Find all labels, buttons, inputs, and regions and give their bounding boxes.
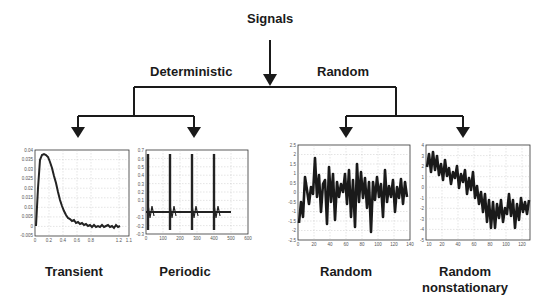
svg-text:0: 0 (145, 236, 148, 241)
chart-periodic: 0.70.60.5 0.40.30.2 0.10-0.1 -0.2-0.3 01… (128, 148, 252, 248)
svg-text:0.1: 0.1 (138, 198, 145, 203)
svg-text:0: 0 (141, 207, 144, 212)
svg-text:-2: -2 (292, 228, 296, 233)
svg-text:1: 1 (421, 175, 424, 180)
svg-text:120: 120 (390, 242, 398, 247)
caption-periodic: Periodic (155, 264, 215, 280)
svg-text:20: 20 (439, 242, 445, 247)
root-label-signals: Signals (247, 11, 293, 26)
svg-text:0.3: 0.3 (138, 182, 145, 187)
svg-text:400: 400 (210, 236, 218, 241)
svg-text:0.2: 0.2 (138, 190, 145, 195)
branch-label-deterministic: Deterministic (150, 64, 232, 79)
svg-text:4: 4 (421, 143, 424, 148)
svg-text:-2: -2 (420, 206, 424, 211)
svg-text:-4: -4 (420, 227, 424, 232)
svg-text:0.8: 0.8 (88, 238, 95, 243)
svg-text:2: 2 (293, 152, 296, 157)
svg-text:0.2: 0.2 (46, 238, 53, 243)
svg-text:-2.5: -2.5 (288, 238, 296, 243)
svg-text:0.015: 0.015 (22, 195, 34, 200)
svg-text:0.5: 0.5 (138, 165, 145, 170)
svg-text:0.6: 0.6 (138, 157, 145, 162)
chart-transient: 0.040.0350.03 0.0250.020.015 0.010.0050 … (18, 148, 136, 248)
svg-text:600: 600 (244, 236, 252, 241)
svg-text:1.2: 1.2 (116, 238, 123, 243)
svg-text:2.5: 2.5 (290, 143, 297, 148)
svg-text:100: 100 (159, 236, 167, 241)
svg-text:0.01: 0.01 (24, 205, 33, 210)
svg-text:0: 0 (34, 238, 37, 243)
svg-text:-0.5: -0.5 (288, 200, 296, 205)
svg-text:-0.1: -0.1 (136, 215, 144, 220)
svg-text:0: 0 (30, 224, 33, 229)
svg-text:80: 80 (359, 242, 365, 247)
svg-text:-1: -1 (292, 209, 296, 214)
svg-text:0: 0 (421, 185, 424, 190)
svg-text:60: 60 (343, 242, 349, 247)
svg-text:0.02: 0.02 (24, 186, 33, 191)
svg-text:0.7: 0.7 (138, 148, 145, 153)
svg-text:100: 100 (374, 242, 382, 247)
svg-text:-0.3: -0.3 (136, 232, 144, 237)
svg-text:0.6: 0.6 (74, 238, 81, 243)
caption-random: Random (316, 264, 376, 280)
svg-text:-0.2: -0.2 (136, 224, 144, 229)
svg-text:-1.5: -1.5 (288, 219, 296, 224)
svg-text:10: 10 (426, 242, 432, 247)
svg-text:3: 3 (421, 154, 424, 159)
svg-text:120: 120 (518, 242, 526, 247)
svg-text:40: 40 (455, 242, 461, 247)
svg-text:0.005: 0.005 (22, 214, 34, 219)
svg-text:0.4: 0.4 (138, 173, 145, 178)
caption-random-nonstationary-line2: nonstationary (410, 280, 520, 296)
svg-text:0.4: 0.4 (60, 238, 67, 243)
svg-text:1.5: 1.5 (290, 162, 297, 167)
svg-text:100: 100 (502, 242, 510, 247)
svg-text:20: 20 (311, 242, 317, 247)
chart-random-nonstationary: 432 10-1 -2-3-4 -5 102040 6080100 120 (410, 142, 536, 246)
caption-random-nonstationary-line1: Random (410, 264, 520, 280)
arrow-root (263, 74, 277, 86)
svg-text:2: 2 (421, 164, 424, 169)
arrow-random-nonstationary (456, 127, 470, 138)
svg-text:80: 80 (487, 242, 493, 247)
svg-text:0.03: 0.03 (24, 167, 33, 172)
svg-text:300: 300 (193, 236, 201, 241)
svg-text:-0.005: -0.005 (20, 233, 33, 238)
svg-text:-5: -5 (420, 238, 424, 243)
arrow-transient (71, 127, 85, 138)
chart-random: 2.521.5 10.50 -0.5-1-1.5 -2-2.5 02040 60… (280, 142, 416, 246)
svg-text:0.035: 0.035 (22, 157, 34, 162)
svg-text:0.025: 0.025 (22, 176, 34, 181)
svg-text:0.5: 0.5 (290, 181, 297, 186)
svg-text:1: 1 (293, 171, 296, 176)
svg-text:500: 500 (227, 236, 235, 241)
svg-text:0: 0 (293, 190, 296, 195)
svg-text:-3: -3 (420, 217, 424, 222)
svg-text:60: 60 (471, 242, 477, 247)
arrow-periodic (187, 127, 201, 138)
branch-label-random: Random (317, 64, 369, 79)
svg-text:-1: -1 (420, 196, 424, 201)
svg-text:200: 200 (176, 236, 184, 241)
svg-text:0.04: 0.04 (24, 148, 33, 153)
arrow-random (339, 127, 353, 138)
caption-random-nonstationary: Random nonstationary (410, 264, 520, 296)
svg-text:40: 40 (327, 242, 333, 247)
caption-transient: Transient (44, 264, 104, 280)
